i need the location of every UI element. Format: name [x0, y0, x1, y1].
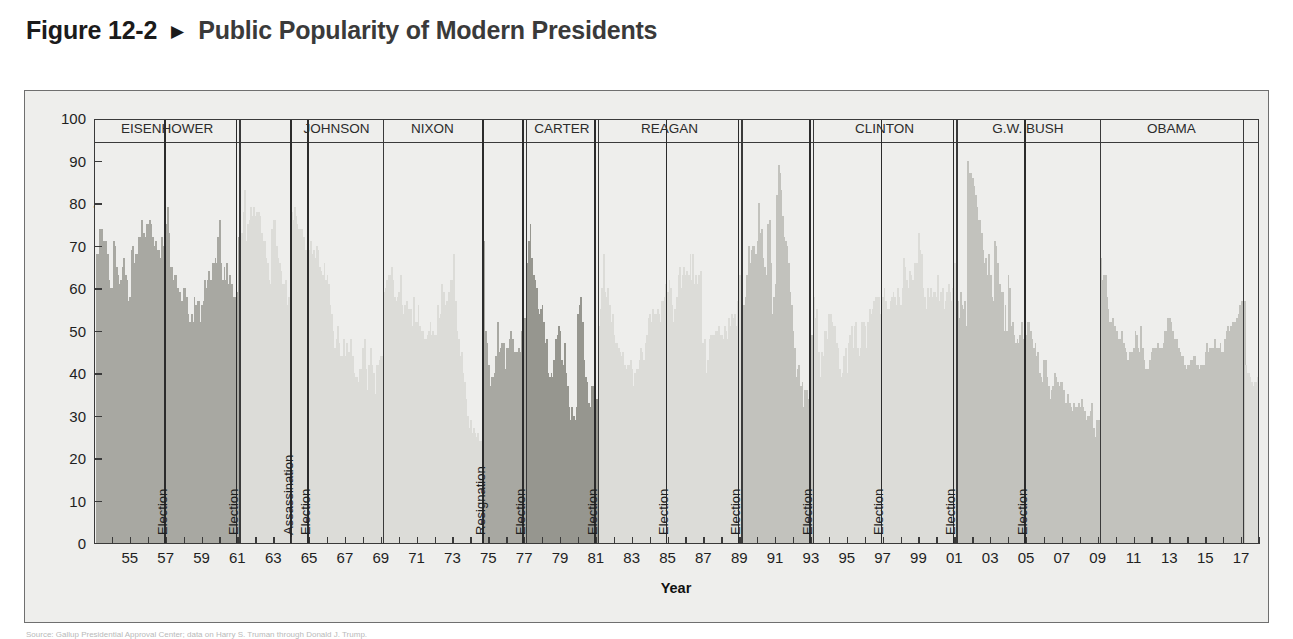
- x-tick-label: 85: [659, 550, 676, 565]
- x-axis-title: Year: [661, 580, 692, 596]
- x-tick-mark: [1116, 537, 1117, 544]
- x-tick-mark: [990, 537, 991, 544]
- x-tick-mark: [524, 537, 525, 544]
- x-tick-mark: [184, 537, 185, 544]
- y-tick-mark: [95, 288, 102, 289]
- event-label-election: Election: [299, 489, 312, 535]
- y-tick-mark: [95, 246, 102, 247]
- x-tick-mark: [775, 537, 776, 544]
- x-tick-mark: [148, 537, 149, 544]
- x-tick-mark: [1026, 537, 1027, 544]
- president-divider: [526, 120, 527, 543]
- president-divider: [383, 120, 384, 543]
- x-tick-mark: [399, 537, 400, 544]
- x-tick-mark: [1241, 537, 1242, 544]
- x-tick-mark: [1044, 537, 1045, 544]
- x-tick-mark: [506, 537, 507, 544]
- x-tick-label: 03: [982, 550, 999, 565]
- x-tick-mark: [811, 537, 812, 544]
- x-tick-label: 09: [1089, 550, 1106, 565]
- x-tick-mark: [1223, 537, 1224, 544]
- president-divider: [956, 120, 957, 543]
- event-marker-line: [522, 120, 524, 543]
- x-tick-mark: [363, 537, 364, 544]
- x-tick-mark: [883, 537, 884, 544]
- x-tick-mark: [721, 537, 722, 544]
- event-marker-line: [307, 120, 309, 543]
- x-tick-mark: [435, 537, 436, 544]
- event-marker-line: [738, 120, 740, 543]
- x-tick-label: 97: [874, 550, 891, 565]
- y-tick-mark: [95, 161, 102, 162]
- y-tick-mark: [95, 203, 102, 204]
- triangle-right-icon: ▶: [171, 23, 184, 40]
- event-label-election: Election: [586, 489, 599, 535]
- x-tick-mark: [345, 537, 346, 544]
- y-tick-label: 60: [69, 281, 86, 296]
- x-tick-mark: [757, 537, 758, 544]
- event-marker-line: [164, 120, 166, 543]
- president-divider: [813, 120, 814, 543]
- president-label-johnson: JOHNSON: [303, 122, 369, 136]
- x-tick-label: 89: [731, 550, 748, 565]
- event-label-election: Election: [872, 489, 885, 535]
- x-tick-mark: [632, 537, 633, 544]
- x-tick-mark: [255, 537, 256, 544]
- x-tick-label: 55: [122, 550, 139, 565]
- x-tick-mark: [112, 537, 113, 544]
- y-tick-label: 30: [69, 409, 86, 424]
- x-tick-label: 87: [695, 550, 712, 565]
- x-tick-mark: [793, 537, 794, 544]
- x-tick-label: 07: [1054, 550, 1071, 565]
- x-tick-mark: [202, 537, 203, 544]
- x-tick-mark: [1259, 537, 1260, 544]
- event-marker-line: [881, 120, 883, 543]
- x-tick-mark: [488, 537, 489, 544]
- event-label-assassination: Assassination: [282, 455, 295, 535]
- x-tick-mark: [381, 537, 382, 544]
- event-marker-line: [809, 120, 811, 543]
- x-tick-mark: [452, 537, 453, 544]
- x-tick-label: 65: [301, 550, 318, 565]
- x-tick-mark: [1098, 537, 1099, 544]
- x-tick-label: 75: [480, 550, 497, 565]
- x-tick-mark: [596, 537, 597, 544]
- x-tick-label: 63: [265, 550, 282, 565]
- x-tick-mark: [1151, 537, 1152, 544]
- x-tick-mark: [829, 537, 830, 544]
- president-divider: [598, 120, 599, 543]
- x-tick-mark: [327, 537, 328, 544]
- event-marker-line: [666, 120, 668, 543]
- x-tick-mark: [273, 537, 274, 544]
- x-tick-label: 83: [623, 550, 640, 565]
- x-tick-label: 77: [516, 550, 533, 565]
- x-tick-mark: [291, 537, 292, 544]
- event-marker-line: [594, 120, 596, 543]
- x-tick-mark: [865, 537, 866, 544]
- x-tick-mark: [650, 537, 651, 544]
- event-label-election: Election: [729, 489, 742, 535]
- x-tick-label: 73: [444, 550, 461, 565]
- x-tick-label: 99: [910, 550, 927, 565]
- event-label-election: Election: [514, 489, 527, 535]
- y-tick-label: 80: [69, 196, 86, 211]
- y-tick-label: 40: [69, 366, 86, 381]
- x-tick-mark: [972, 537, 973, 544]
- x-tick-mark: [614, 537, 615, 544]
- president-label-obama: OBAMA: [1147, 122, 1196, 136]
- x-tick-mark: [901, 537, 902, 544]
- y-tick-mark: [95, 458, 102, 459]
- x-tick-label: 59: [193, 550, 210, 565]
- y-tick-label: 50: [69, 324, 86, 339]
- y-tick-mark: [95, 331, 102, 332]
- event-marker-line: [953, 120, 955, 543]
- president-divider: [741, 120, 742, 543]
- y-tick-label: 10: [69, 494, 86, 509]
- y-tick-label: 100: [61, 111, 86, 126]
- president-label-carter: CARTER: [534, 122, 589, 136]
- president-label-nixon: NIXON: [411, 122, 454, 136]
- x-tick-mark: [668, 537, 669, 544]
- event-marker-line: [1024, 120, 1026, 543]
- y-tick-label: 90: [69, 154, 86, 169]
- y-tick-mark: [95, 416, 102, 417]
